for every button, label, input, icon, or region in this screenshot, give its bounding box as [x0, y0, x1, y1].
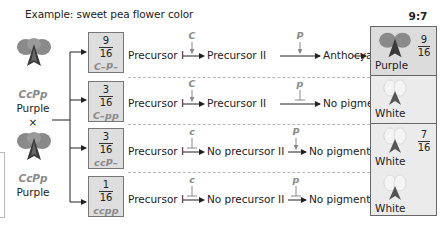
gene-label: C [186, 30, 198, 41]
result-label: White [375, 107, 406, 119]
product-label: No pigment [309, 145, 370, 157]
result-white: 7 16 White [371, 124, 436, 171]
precursor-label: Precursor I [128, 145, 184, 157]
gene-label: C [186, 78, 198, 89]
result-label: White [375, 202, 406, 214]
product-label: No pigment [309, 193, 370, 205]
intermediate-label: No precursor II [207, 145, 284, 157]
precursor-label: Precursor I [128, 97, 184, 109]
precursor-label: Precursor I [128, 193, 184, 205]
white-flower-icon [383, 127, 407, 155]
gene-label: P [294, 30, 306, 41]
result-label: Purple [375, 59, 408, 71]
intermediate-label: No precursor II [207, 193, 284, 205]
white-flower-icon [383, 79, 407, 107]
intermediate-label: Precursor II [207, 97, 266, 109]
gene-label: p [294, 78, 306, 89]
purple-fraction: 9 16 [417, 35, 431, 58]
fraction-denominator: 16 [418, 47, 431, 58]
result-white: White [371, 171, 436, 215]
gene-label: c [186, 174, 198, 185]
result-purple: 9 16 Purple [371, 27, 436, 75]
white-fraction: 7 16 [417, 130, 431, 153]
precursor-label: Precursor I [128, 49, 184, 61]
white-flower-icon [383, 174, 407, 202]
purple-flower-icon [379, 31, 411, 59]
result-white: White [371, 76, 436, 123]
intermediate-label: Precursor II [207, 49, 266, 61]
fraction-numerator: 7 [421, 129, 427, 140]
gene-label: p [290, 174, 302, 185]
fraction-numerator: 9 [421, 34, 427, 45]
gene-label: c [186, 126, 198, 137]
gene-label: P [290, 126, 302, 137]
phenotype-results: 9 16 Purple White 7 16 White [370, 26, 437, 216]
result-label: White [375, 155, 406, 167]
fraction-denominator: 16 [418, 142, 431, 153]
